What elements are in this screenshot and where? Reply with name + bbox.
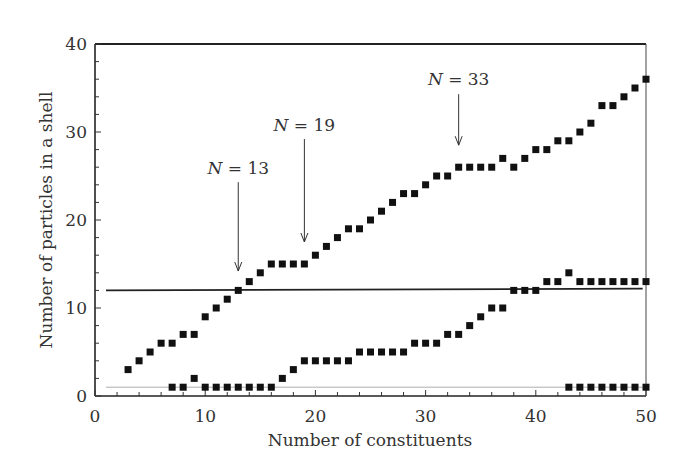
data-point [400, 349, 407, 356]
data-point [312, 252, 319, 259]
data-point [301, 357, 308, 364]
annotation-label: N = 33 [427, 69, 490, 89]
data-point [477, 313, 484, 320]
data-point [521, 287, 528, 294]
data-point [367, 217, 374, 224]
data-point [521, 155, 528, 162]
data-point [620, 384, 627, 391]
data-point [543, 146, 550, 153]
data-point [444, 331, 451, 338]
x-tick-label: 20 [305, 406, 327, 426]
data-point [631, 85, 638, 92]
data-point [587, 384, 594, 391]
data-point [389, 199, 396, 206]
data-point [246, 278, 253, 285]
data-point [543, 278, 550, 285]
data-point [554, 278, 561, 285]
data-point [191, 375, 198, 382]
x-tick-label: 50 [635, 406, 657, 426]
data-point [609, 384, 616, 391]
data-point [224, 296, 231, 303]
data-point [301, 261, 308, 268]
data-point [587, 278, 594, 285]
data-point [235, 287, 242, 294]
data-point [169, 384, 176, 391]
data-point [136, 357, 143, 364]
annotations: N = 13N = 19N = 33 [206, 69, 489, 271]
data-point [268, 384, 275, 391]
data-point [257, 384, 264, 391]
data-point [422, 340, 429, 347]
data-point [290, 366, 297, 373]
data-point [334, 234, 341, 241]
data-point [213, 384, 220, 391]
data-point [191, 331, 198, 338]
data-point [290, 261, 297, 268]
data-point [643, 384, 650, 391]
annotation-label: N = 13 [206, 158, 269, 178]
data-markers [125, 76, 650, 391]
data-point [643, 76, 650, 83]
data-point [598, 384, 605, 391]
data-point [345, 357, 352, 364]
reference-line [106, 289, 643, 291]
data-point [180, 384, 187, 391]
data-point [345, 225, 352, 232]
data-point [488, 305, 495, 312]
data-point [235, 384, 242, 391]
data-point [356, 225, 363, 232]
data-point [565, 269, 572, 276]
data-point [620, 93, 627, 100]
data-point [455, 164, 462, 171]
y-tick-label: 20 [65, 210, 87, 230]
data-point [554, 137, 561, 144]
data-point [367, 349, 374, 356]
data-point [334, 357, 341, 364]
data-point [213, 305, 220, 312]
data-point [620, 278, 627, 285]
data-point [609, 102, 616, 109]
data-point [378, 349, 385, 356]
data-point [411, 190, 418, 197]
data-point [499, 305, 506, 312]
x-tick-label: 40 [525, 406, 547, 426]
data-point [477, 164, 484, 171]
annotation: N = 13 [206, 158, 269, 271]
data-point [466, 164, 473, 171]
data-point [323, 243, 330, 250]
series-outer-shell [125, 76, 650, 373]
data-point [433, 173, 440, 180]
data-point [433, 340, 440, 347]
data-point [125, 366, 132, 373]
data-point [246, 384, 253, 391]
data-point [532, 146, 539, 153]
data-point [180, 331, 187, 338]
data-point [422, 181, 429, 188]
data-point [279, 261, 286, 268]
data-point [279, 375, 286, 382]
data-point [312, 357, 319, 364]
data-point [576, 129, 583, 136]
x-tick-label: 10 [194, 406, 216, 426]
data-point [576, 278, 583, 285]
y-tick-label: 10 [65, 298, 87, 318]
data-point [411, 340, 418, 347]
annotation: N = 33 [427, 69, 490, 145]
annotation-label: N = 19 [273, 115, 336, 135]
data-point [400, 190, 407, 197]
x-tick-label: 0 [90, 406, 101, 426]
data-point [389, 349, 396, 356]
data-point [643, 278, 650, 285]
data-point [631, 384, 638, 391]
data-point [510, 287, 517, 294]
chart: 01020304050 010203040 N = 13N = 19N = 33… [0, 0, 684, 466]
data-point [257, 269, 264, 276]
data-point [224, 384, 231, 391]
data-point [576, 384, 583, 391]
annotation: N = 19 [273, 115, 336, 242]
data-point [598, 278, 605, 285]
data-point [510, 164, 517, 171]
data-point [565, 137, 572, 144]
data-point [202, 384, 209, 391]
reference-lines [106, 289, 643, 388]
